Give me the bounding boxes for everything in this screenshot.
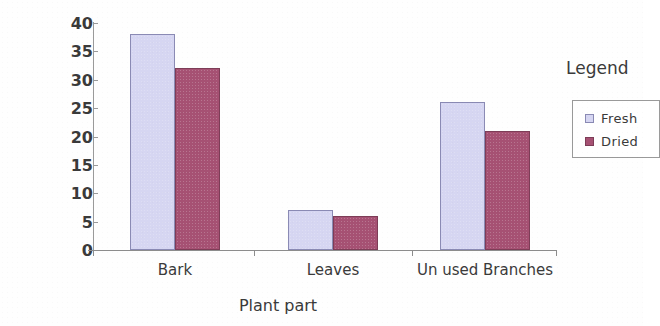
y-tick-mark	[93, 222, 98, 223]
y-tick-label: 25	[59, 99, 93, 118]
y-tick-mark	[93, 193, 98, 194]
x-separator-tick	[412, 250, 413, 256]
bar-fresh-un-used-branches	[440, 102, 485, 250]
y-tick-mark	[93, 137, 98, 138]
bar-texture	[441, 103, 484, 249]
y-tick-label: 15	[59, 155, 93, 174]
legend-item-fresh: Fresh	[585, 111, 638, 126]
bar-fresh-bark	[130, 34, 175, 250]
x-separator-tick	[93, 250, 94, 256]
legend-label-dried: Dried	[601, 134, 638, 149]
bar-dried-un-used-branches	[485, 131, 530, 250]
bar-texture	[131, 35, 174, 249]
y-tick-mark	[93, 23, 98, 24]
legend-label-fresh: Fresh	[601, 111, 638, 126]
bar-texture	[176, 69, 219, 249]
bar-texture	[289, 211, 332, 249]
y-tick-mark	[93, 51, 98, 52]
y-tick-label: 40	[59, 14, 93, 33]
bar-fresh-leaves	[288, 210, 333, 250]
x-separator-tick	[556, 250, 557, 256]
y-tick-label: 20	[59, 127, 93, 146]
y-tick-label: 10	[59, 184, 93, 203]
x-category-label-bark: Bark	[95, 261, 255, 279]
bar-dried-bark	[175, 68, 220, 250]
y-tick-mark	[93, 165, 98, 166]
legend-title: Legend	[566, 58, 628, 78]
x-category-label-un-used-branches: Un used Branches	[405, 261, 565, 279]
fresh-swatch-icon	[585, 114, 594, 123]
x-separator-tick	[254, 250, 255, 256]
x-category-label-leaves: Leaves	[253, 261, 413, 279]
y-tick-label: 30	[59, 70, 93, 89]
y-tick-mark	[93, 80, 98, 81]
y-tick-label: 35	[59, 42, 93, 61]
legend-box: Fresh Dried	[572, 100, 660, 158]
x-axis-line	[88, 250, 556, 251]
bar-dried-leaves	[333, 216, 378, 250]
y-tick-mark	[93, 108, 98, 109]
dried-swatch-icon	[585, 137, 594, 146]
x-axis-title: Plant part	[0, 296, 556, 315]
y-tick-label: 5	[59, 212, 93, 231]
bar-texture	[334, 217, 377, 249]
bar-texture	[486, 132, 529, 249]
legend-item-dried: Dried	[585, 134, 638, 149]
